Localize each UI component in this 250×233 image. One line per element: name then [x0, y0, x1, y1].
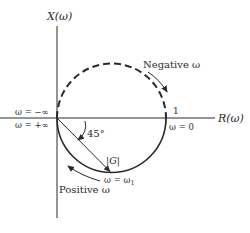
omega-zero-label: ω = 0: [169, 122, 194, 132]
nyquist-diagram: X(ω) R(ω) ω = −∞ ω = +∞ 45° |G| ω = ω1 ω…: [0, 0, 250, 233]
omega-neg-inf-label: ω = −∞: [15, 107, 49, 117]
omega-pos-inf-label: ω = +∞: [15, 120, 49, 130]
positive-omega-label: Positive ω: [59, 184, 110, 195]
negative-omega-arrow: [148, 72, 167, 92]
unit-tick-label: 1: [173, 106, 179, 116]
magnitude-vector: [57, 118, 110, 172]
horizontal-axis-label: R(ω): [217, 112, 244, 125]
negative-omega-label: Negative ω: [143, 59, 200, 70]
angle-arc: [78, 121, 86, 140]
positive-omega-arrow: [68, 166, 100, 181]
vertical-axis-label: X(ω): [46, 10, 72, 23]
angle-label: 45°: [87, 128, 105, 139]
negative-frequency-curve: [57, 63, 166, 118]
magnitude-label: |G|: [106, 155, 120, 167]
